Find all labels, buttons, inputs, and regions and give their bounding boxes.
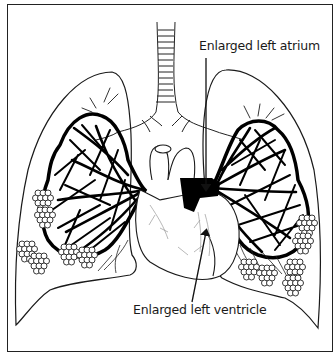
label-enlarged-left-ventricle: Enlarged left ventricle: [133, 302, 267, 317]
label-enlarged-left-atrium: Enlarged left atrium: [199, 38, 320, 53]
